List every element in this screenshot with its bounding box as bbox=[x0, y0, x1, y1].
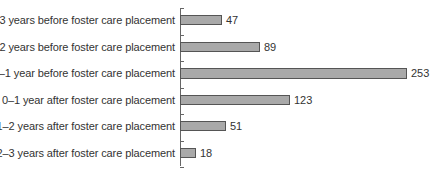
bar-row: 1–2 years after foster care placement51 bbox=[0, 121, 439, 133]
bar-row: 0–1 year after foster care placement123 bbox=[0, 95, 439, 107]
horizontal-bar-chart: 2–3 years before foster care placement47… bbox=[0, 0, 439, 178]
axis-tick bbox=[180, 88, 184, 89]
bar bbox=[180, 148, 196, 158]
category-label: 2–3 years after foster care placement bbox=[0, 146, 175, 160]
category-label: 1–2 years before foster care placement bbox=[0, 40, 175, 54]
category-label: 0–1 year before foster care placement bbox=[0, 66, 175, 80]
axis-tick bbox=[180, 8, 184, 9]
axis-tick bbox=[180, 35, 184, 36]
value-label: 253 bbox=[411, 66, 429, 80]
value-label: 18 bbox=[200, 146, 212, 160]
bar bbox=[180, 95, 290, 105]
bar bbox=[180, 68, 407, 79]
axis-tick bbox=[180, 167, 184, 168]
axis-tick bbox=[180, 141, 184, 142]
y-axis-line bbox=[180, 8, 181, 166]
bar bbox=[180, 121, 226, 131]
bar-row: 2–3 years after foster care placement18 bbox=[0, 148, 439, 160]
bar-row: 1–2 years before foster care placement89 bbox=[0, 42, 439, 54]
axis-tick bbox=[180, 61, 184, 62]
bar bbox=[180, 15, 222, 25]
axis-tick bbox=[180, 114, 184, 115]
bar-row: 2–3 years before foster care placement47 bbox=[0, 15, 439, 27]
bar bbox=[180, 42, 260, 52]
category-label: 2–3 years before foster care placement bbox=[0, 13, 175, 27]
bar-row: 0–1 year before foster care placement253 bbox=[0, 68, 439, 80]
value-label: 51 bbox=[230, 119, 242, 133]
value-label: 47 bbox=[226, 13, 238, 27]
category-label: 0–1 year after foster care placement bbox=[2, 93, 175, 107]
category-label: 1–2 years after foster care placement bbox=[0, 119, 175, 133]
value-label: 123 bbox=[294, 93, 312, 107]
value-label: 89 bbox=[264, 40, 276, 54]
